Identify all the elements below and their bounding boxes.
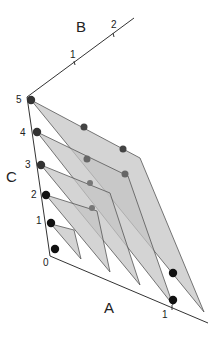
- axis-c-tick-label-0: 0: [43, 257, 49, 268]
- dot-origin: [51, 245, 59, 253]
- axis-b-tick-label-2: 2: [111, 19, 117, 30]
- dot-c4: [33, 128, 41, 136]
- dot-c2: [42, 191, 50, 199]
- dot-c1: [47, 219, 55, 227]
- dot-back: [120, 146, 127, 153]
- dot-back: [84, 156, 91, 163]
- axis-c: [27, 97, 50, 256]
- axis-b-tick-2: [113, 33, 114, 37]
- axis-a-tick-label-1: 1: [162, 309, 168, 320]
- axis-a-label: A: [104, 299, 114, 316]
- axis-b-tick-label-1: 1: [70, 49, 76, 60]
- dot-c3: [37, 161, 45, 169]
- axis-c-tick-label-5: 5: [16, 94, 22, 105]
- dot-back: [81, 124, 88, 131]
- axis-b-label: B: [76, 18, 86, 35]
- diagram-canvas: B 1 2 C 5 4 3 2 1 0 A 1: [0, 0, 221, 344]
- axis-c-tick-label-4: 4: [20, 127, 26, 138]
- axis-c-tick-label-1: 1: [36, 215, 42, 226]
- axis-c-label: C: [6, 168, 17, 185]
- axis-c-tick-label-3: 3: [25, 159, 31, 170]
- axis-c-tick-label-2: 2: [31, 189, 37, 200]
- dot-back: [87, 180, 93, 186]
- dot-a1: [169, 296, 177, 304]
- dot-back: [89, 205, 95, 211]
- planes-group: [31, 100, 204, 312]
- dot-c5: [27, 96, 35, 104]
- dot-back: [122, 171, 129, 178]
- dot-a1-upper: [169, 269, 177, 277]
